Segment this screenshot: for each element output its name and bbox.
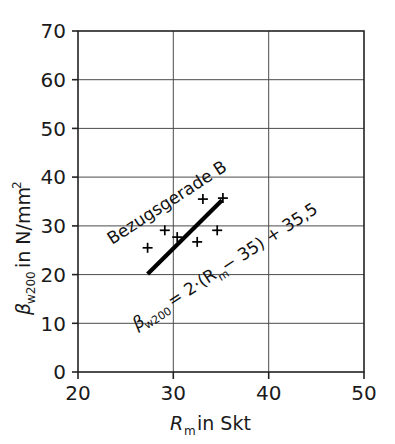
y-tick-label-50: 50 <box>41 117 66 141</box>
data-point <box>212 225 222 235</box>
y-tick-label-0: 0 <box>53 360 66 384</box>
y-axis-title-subscript: w200 <box>24 271 38 304</box>
y-axis-title-unit: in N/mm <box>12 187 34 268</box>
x-axis-title: R m in Skt <box>170 412 251 438</box>
y-tick-marks <box>72 31 78 372</box>
equation-beta-subscript: w200 <box>142 305 174 332</box>
data-point <box>160 225 170 235</box>
x-tick-label-40: 40 <box>256 381 281 405</box>
y-tick-labels: 0 10 20 30 40 50 60 70 <box>41 19 66 384</box>
x-tick-label-50: 50 <box>351 381 376 405</box>
y-axis-title: β w200 in N/mm 2 <box>10 181 38 316</box>
chart-figure: 0 10 20 30 40 50 60 70 20 30 40 50 β w20… <box>0 0 395 444</box>
y-tick-label-40: 40 <box>41 165 66 189</box>
equation-body: = 2·(R <box>164 264 221 310</box>
x-axis-title-unit: in Skt <box>197 412 251 434</box>
x-axis-title-symbol: R <box>170 412 183 434</box>
data-point <box>192 237 202 247</box>
y-tick-label-20: 20 <box>41 263 66 287</box>
data-point <box>143 243 153 253</box>
y-tick-label-60: 60 <box>41 68 66 92</box>
x-tick-label-30: 30 <box>161 381 186 405</box>
x-tick-labels: 20 30 40 50 <box>65 381 376 405</box>
x-tick-label-20: 20 <box>65 381 90 405</box>
data-point <box>198 194 208 204</box>
scatter-plot: 0 10 20 30 40 50 60 70 20 30 40 50 β w20… <box>0 0 395 444</box>
x-tick-marks <box>78 372 364 379</box>
y-tick-label-70: 70 <box>41 19 66 43</box>
x-axis-title-subscript: m <box>184 424 196 438</box>
reference-line-label-text: Bezugsgerade B <box>103 156 230 248</box>
y-tick-label-10: 10 <box>41 312 66 336</box>
y-axis-title-exponent: 2 <box>10 181 24 189</box>
y-tick-label-30: 30 <box>41 214 66 238</box>
reference-line-label: Bezugsgerade B <box>103 156 230 248</box>
